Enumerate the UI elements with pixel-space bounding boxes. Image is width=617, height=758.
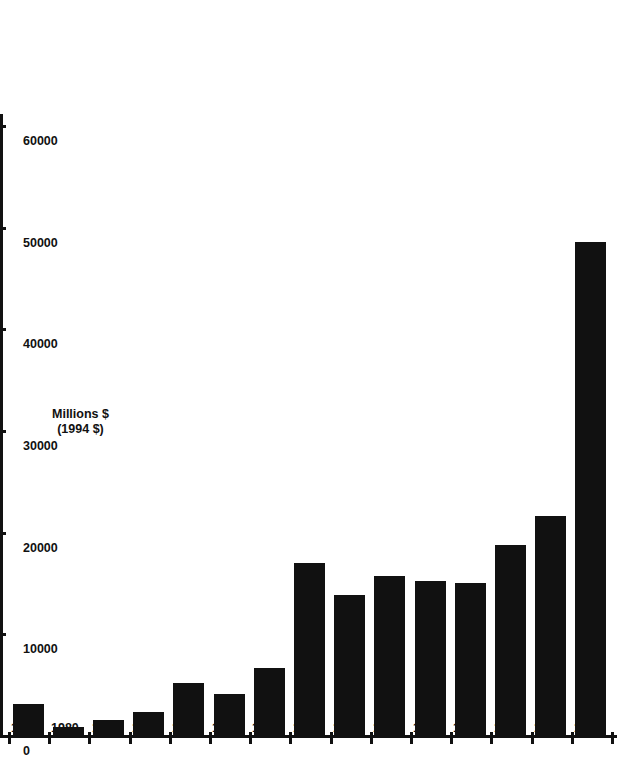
value-tick-label: 0 — [23, 744, 30, 758]
value-axis-title: Millions $ (1994 $) — [52, 407, 109, 437]
bar-1986[interactable] — [294, 563, 325, 738]
value-axis: 0100002000030000400005000060000 — [0, 114, 3, 738]
value-tick-label: 20000 — [23, 541, 58, 555]
category-label-1981: 1981 — [92, 721, 120, 735]
bar-1990[interactable] — [455, 583, 486, 738]
bar-group — [374, 98, 405, 738]
category-tick — [490, 732, 493, 744]
bar-group — [173, 98, 204, 738]
bar-1989[interactable] — [415, 581, 446, 738]
category-label-1986: 1986 — [293, 721, 321, 735]
value-tick-label: 50000 — [23, 236, 58, 250]
category-label-1993: 1993 — [574, 721, 602, 735]
bar-group — [535, 98, 566, 738]
bar-group — [575, 98, 606, 738]
value-tick — [0, 328, 6, 331]
bar-1991[interactable] — [495, 545, 526, 738]
category-tick — [289, 732, 292, 744]
bar-group — [415, 98, 446, 738]
category-label-1980: 1980 — [51, 721, 79, 735]
bar-1993[interactable] — [575, 242, 606, 738]
value-tick-label: 40000 — [23, 337, 58, 351]
category-label-1984: 1984 — [212, 721, 240, 735]
value-tick — [0, 125, 6, 128]
category-label-1990: 1990 — [453, 721, 481, 735]
value-tick-label: 10000 — [23, 642, 58, 656]
bar-group — [294, 98, 325, 738]
category-tick — [88, 732, 91, 744]
bar-group — [133, 98, 164, 738]
category-label-1983: 1983 — [172, 721, 200, 735]
category-label-1991: 1991 — [494, 721, 522, 735]
bar-group — [495, 98, 526, 738]
category-axis-title: Year — [294, 690, 320, 705]
bar-group — [455, 98, 486, 738]
category-tick — [611, 732, 614, 744]
bar-group — [214, 98, 245, 738]
value-tick — [0, 430, 6, 433]
bar-1988[interactable] — [374, 576, 405, 738]
value-tick-label: 30000 — [23, 439, 58, 453]
category-label-1992: 1992 — [534, 721, 562, 735]
category-label-1989: 1989 — [413, 721, 441, 735]
bar-1992[interactable] — [535, 516, 566, 738]
value-axis-title-line2: (1994 $) — [52, 422, 109, 437]
category-label-1985: 1985 — [252, 721, 280, 735]
bar-group — [334, 98, 365, 738]
value-tick — [0, 633, 6, 636]
value-tick — [0, 532, 6, 535]
bar-group — [254, 98, 285, 738]
category-axis: 1979198019811982198319841985198619871988… — [0, 735, 617, 738]
value-tick — [0, 227, 6, 230]
value-axis-title-line1: Millions $ — [52, 407, 109, 422]
value-tick-label: 60000 — [23, 134, 58, 148]
category-label-1979: 1979 — [11, 721, 39, 735]
category-label-1988: 1988 — [373, 721, 401, 735]
category-label-1987: 1987 — [333, 721, 361, 735]
category-label-1982: 1982 — [132, 721, 160, 735]
bar-1987[interactable] — [334, 595, 365, 738]
